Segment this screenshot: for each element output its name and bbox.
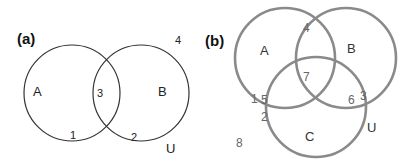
region-c-boundary-left: 2 <box>261 110 268 124</box>
panel-a-label: (a) <box>17 30 35 47</box>
panel-a: (a) A B 3 1 2 4 U <box>17 30 189 156</box>
region-outside: 4 <box>175 34 181 46</box>
set-c-label: C <box>305 129 314 144</box>
set-a-label: A <box>260 43 269 58</box>
region-b-c: 6 <box>348 93 355 107</box>
set-b-label: B <box>347 41 356 56</box>
universe-label: U <box>367 120 376 135</box>
region-a-and-b: 3 <box>97 87 103 99</box>
panel-b: (b) A B C 4 7 1 5 2 6 3 U 8 <box>205 8 396 157</box>
venn-diagrams: (a) A B 3 1 2 4 U (b) A B C 4 7 1 5 2 6 … <box>0 0 407 167</box>
panel-b-label: (b) <box>205 32 224 49</box>
region-a-b: 4 <box>303 21 310 35</box>
region-b-boundary: 2 <box>131 131 137 143</box>
region-a-boundary: 1 <box>70 129 76 141</box>
region-a-c: 5 <box>261 93 268 107</box>
set-b-circle <box>93 45 189 141</box>
region-outside: 8 <box>236 136 243 150</box>
set-b-label: B <box>158 84 167 99</box>
set-a-label: A <box>33 84 42 99</box>
region-a-boundary-left: 1 <box>251 92 258 106</box>
region-a-b-c: 7 <box>303 70 310 84</box>
region-b-boundary-right: 3 <box>360 89 367 103</box>
universe-label: U <box>166 141 175 156</box>
